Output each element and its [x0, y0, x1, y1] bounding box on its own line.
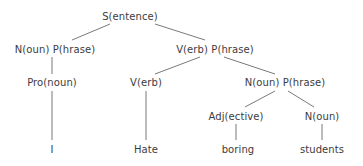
- node-adjective: Adj(ective): [208, 111, 263, 123]
- edge-np2-n: [288, 91, 314, 107]
- edge-s-np1: [72, 24, 110, 40]
- node-verb-phrase: V(erb) P(hrase): [176, 44, 254, 56]
- edge-np2-adj: [245, 91, 275, 107]
- node-pronoun: Pro(noun): [27, 77, 77, 89]
- node-noun-phrase-2: N(oun) P(hrase): [245, 77, 326, 89]
- node-sentence: S(entence): [102, 11, 158, 23]
- leaf-hate: Hate: [134, 144, 158, 156]
- edge-vp-np2: [224, 57, 275, 74]
- leaf-i: I: [50, 144, 53, 156]
- leaf-students: students: [300, 144, 344, 156]
- edge-s-vp: [155, 24, 205, 40]
- edge-vp-v: [155, 57, 200, 74]
- leaf-boring: boring: [222, 144, 255, 156]
- node-noun-phrase: N(oun) P(hrase): [15, 44, 96, 56]
- node-noun: N(oun): [305, 111, 340, 123]
- node-verb: V(erb): [130, 77, 162, 89]
